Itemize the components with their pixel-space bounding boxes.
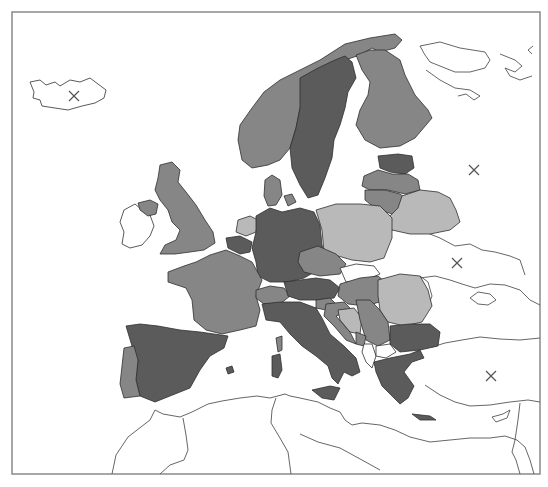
europe-choropleth-map [0, 0, 548, 487]
country-mallorca [226, 366, 234, 374]
country-austria [284, 278, 340, 300]
